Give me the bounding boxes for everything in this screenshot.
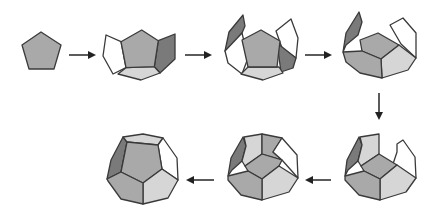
step-2-partial-fold <box>103 30 175 80</box>
step-1-pentagon <box>22 32 61 69</box>
step-3-sides-raised <box>225 15 298 80</box>
arrow-down <box>375 93 383 120</box>
step-5-upper-closing <box>345 134 416 200</box>
step-6-nearly-closed <box>228 134 298 200</box>
step-4-bowl <box>343 12 416 78</box>
dodecahedron-folding-diagram <box>0 0 434 215</box>
arrow-right-3 <box>305 51 332 59</box>
arrow-right-1 <box>69 51 96 59</box>
arrow-left-1 <box>305 176 331 184</box>
step-7-dodecahedron <box>107 134 178 204</box>
arrow-right-2 <box>185 51 212 59</box>
arrow-left-2 <box>186 176 214 184</box>
